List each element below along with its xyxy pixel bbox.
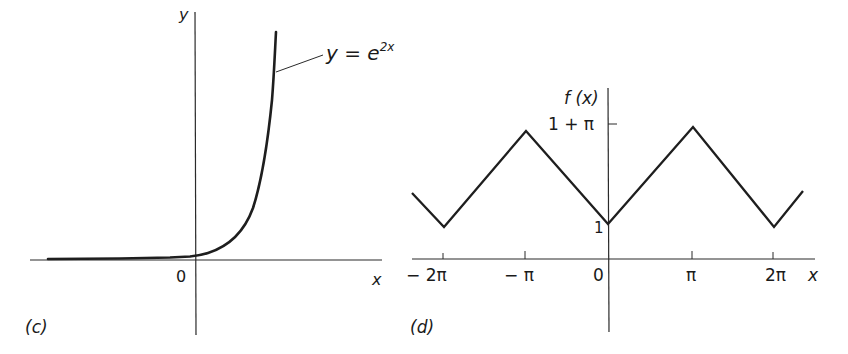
panel-label-d: (d) bbox=[410, 317, 434, 337]
x-tick-label-2pi: 2π bbox=[765, 265, 786, 285]
panel-d: f (x) 1 + π 1 − 2π − π 0 π 2π x (d) bbox=[406, 88, 819, 337]
y-axis-label-d: f (x) bbox=[564, 88, 599, 108]
y-axis-label-c: y bbox=[178, 5, 189, 24]
y-tick-label-1-plus-pi: 1 + π bbox=[548, 114, 594, 134]
x-tick-label-neg-pi: − π bbox=[504, 265, 534, 285]
triangle-wave bbox=[412, 127, 803, 227]
panel-label-c: (c) bbox=[25, 317, 48, 337]
origin-label-c: 0 bbox=[176, 267, 186, 286]
x-axis-label-c: x bbox=[371, 270, 382, 289]
panel-c: y = e2x y 0 x (c) bbox=[25, 5, 395, 337]
x-tick-label-pi: π bbox=[686, 265, 696, 285]
x-axis-label-d: x bbox=[807, 265, 819, 285]
curve-label-c: y = e2x bbox=[325, 40, 395, 65]
x-tick-label-neg-2pi: − 2π bbox=[406, 265, 447, 285]
curve-label-leader bbox=[276, 55, 323, 72]
y-axis-d bbox=[608, 88, 609, 332]
exponential-curve bbox=[48, 32, 276, 259]
y-tick-label-1: 1 bbox=[594, 219, 604, 237]
x-tick-label-0: 0 bbox=[593, 265, 604, 285]
y-axis-c bbox=[195, 12, 196, 335]
